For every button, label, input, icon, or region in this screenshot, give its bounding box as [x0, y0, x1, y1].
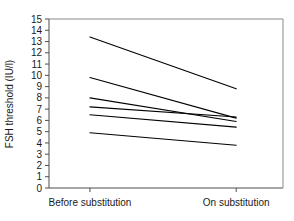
y-tick-label: 8: [36, 92, 42, 103]
y-axis-title: FSH threshold (IU/l): [4, 60, 15, 148]
y-tick-label: 13: [31, 36, 43, 47]
y-tick-label: 1: [36, 171, 42, 182]
y-tick-label: 15: [31, 14, 43, 25]
x-category-label-2: On substitution: [203, 197, 270, 208]
figure-container: FSH threshold (IU/l) 0123456789101112131…: [0, 0, 294, 221]
y-tick-label: 7: [36, 104, 42, 115]
fsh-threshold-paired-line-chart: FSH threshold (IU/l) 0123456789101112131…: [0, 0, 294, 221]
y-tick-label: 10: [31, 70, 43, 81]
y-tick-label: 5: [36, 126, 42, 137]
y-tick-label: 6: [36, 115, 42, 126]
y-tick-label: 3: [36, 149, 42, 160]
y-tick-label: 11: [32, 59, 43, 70]
y-tick-label: 2: [36, 160, 42, 171]
y-tick-label: 14: [31, 25, 43, 36]
x-category-label-1: Before substitution: [49, 197, 132, 208]
y-tick-label: 0: [36, 183, 42, 194]
y-axis-title-text: FSH threshold (IU/l): [4, 60, 15, 148]
y-tick-label: 9: [36, 81, 42, 92]
y-tick-label: 4: [36, 138, 42, 149]
y-tick-label: 12: [31, 47, 43, 58]
